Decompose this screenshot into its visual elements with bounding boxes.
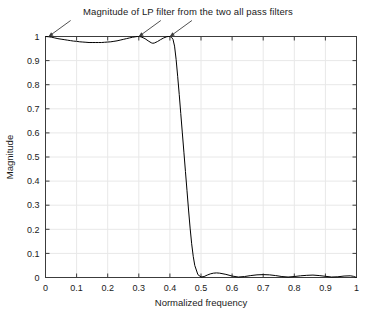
x-axis-label: Normalized frequency	[155, 297, 248, 308]
arrow-to-ripple-peak-1	[139, 21, 161, 37]
arrow-to-passband-start	[49, 21, 71, 37]
arrow-to-ripple-peak-2	[170, 21, 192, 37]
x-tick-label: 0.7	[257, 283, 270, 293]
annotation-arrows	[49, 21, 192, 37]
x-tick-label: 0.8	[288, 283, 301, 293]
y-tick-label: 0.2	[27, 225, 40, 235]
y-tick-label: 1	[34, 32, 39, 42]
chart-screenshot: Magnitude of LP filter from the two all …	[0, 0, 376, 312]
y-tick-label: 0.8	[27, 80, 40, 90]
y-tick-label: 0.1	[27, 249, 40, 259]
y-tick-label: 0.7	[27, 104, 40, 114]
x-tick-label: 1	[354, 283, 359, 293]
x-tick-label: 0.4	[164, 283, 177, 293]
gridlines	[46, 37, 357, 278]
x-tick-label: 0	[43, 283, 48, 293]
x-tick-label: 0.5	[195, 283, 208, 293]
x-tick-label: 0.3	[133, 283, 146, 293]
y-tick-label: 0	[34, 273, 39, 283]
x-tick-label: 0.6	[226, 283, 239, 293]
y-axis-label: Magnitude	[4, 135, 15, 179]
y-tick-label: 0.4	[27, 176, 40, 186]
x-tick-label: 0.9	[319, 283, 332, 293]
y-tick-label: 0.3	[27, 200, 40, 210]
x-tick-label: 0.1	[70, 283, 83, 293]
y-tick-label: 0.9	[27, 56, 40, 66]
chart-plot: 00.10.20.30.40.50.60.70.80.91 00.10.20.3…	[0, 0, 376, 312]
x-tick-label: 0.2	[101, 283, 114, 293]
y-tick-label: 0.6	[27, 128, 40, 138]
y-tick-label: 0.5	[27, 152, 40, 162]
